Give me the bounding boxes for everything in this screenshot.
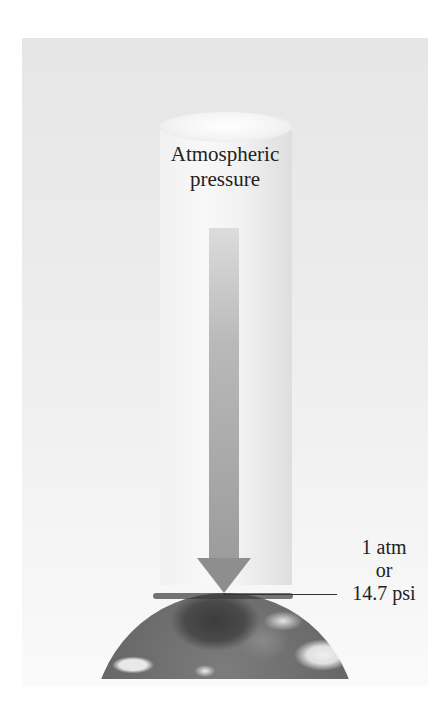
down-arrow-shaft <box>209 228 239 560</box>
pressure-value-label: 1 atm or 14.7 psi <box>334 536 434 605</box>
leader-line <box>224 594 337 595</box>
pressure-value-or: or <box>334 559 434 582</box>
pressure-value-psi: 14.7 psi <box>334 582 434 605</box>
pressure-value-atm: 1 atm <box>334 536 434 559</box>
earth-surface <box>93 593 357 679</box>
column-label: Atmospheric pressure <box>150 142 300 192</box>
column-label-line-2: pressure <box>150 167 300 192</box>
column-label-line-1: Atmospheric <box>150 142 300 167</box>
down-arrow-icon <box>197 558 251 593</box>
earth-globe <box>93 593 357 679</box>
air-column-top <box>160 112 292 142</box>
